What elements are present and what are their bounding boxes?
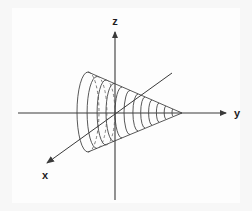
- y-axis-label: y: [234, 107, 241, 119]
- cone-figure: z y x: [0, 0, 252, 211]
- x-axis-label: x: [42, 169, 49, 181]
- cone-diagram-svg: z y x: [0, 0, 252, 211]
- z-axis-label: z: [112, 15, 118, 27]
